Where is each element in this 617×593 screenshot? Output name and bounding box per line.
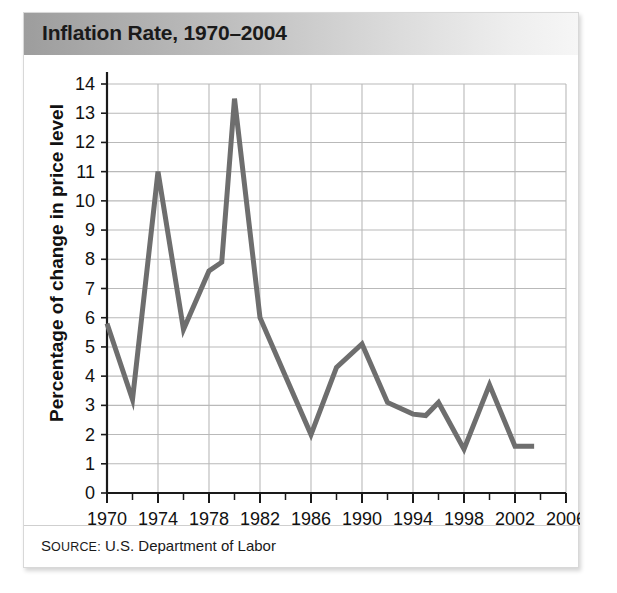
chart-figure: Inflation Rate, 1970–2004 Percentage of … (23, 12, 579, 568)
y-axis-tick-label: 12 (75, 132, 95, 152)
source-prefix-cap: S (41, 537, 51, 554)
page-title: Inflation Rate, 1970–2004 (42, 21, 287, 45)
chart-plot-region: Percentage of change in price level 0123… (24, 55, 578, 527)
y-axis-tick-label: 1 (85, 454, 95, 474)
line-chart-svg: 0123456789101112131419701974197819821986… (24, 55, 580, 527)
y-axis-tick-label: 8 (85, 249, 95, 269)
y-axis-tick-label: 6 (85, 308, 95, 328)
y-axis-tick-label: 5 (85, 337, 95, 357)
y-axis-tick-label: 13 (75, 103, 95, 123)
source-prefix-smallcaps: OURCE: (51, 540, 101, 554)
source-value: U.S. Department of Labor (101, 537, 276, 554)
chart-title-bar: Inflation Rate, 1970–2004 (24, 13, 578, 55)
y-axis-tick-label: 10 (75, 191, 95, 211)
y-axis-tick-label: 4 (85, 366, 95, 386)
y-axis-tick-label: 11 (76, 162, 95, 182)
y-axis-tick-label: 9 (85, 220, 95, 240)
y-axis-tick-label: 0 (85, 483, 95, 503)
chart-source-row: SOURCE: U.S. Department of Labor (24, 525, 578, 567)
y-axis-tick-label: 2 (85, 425, 95, 445)
y-axis-tick-label: 14 (75, 74, 95, 94)
y-axis-tick-label: 3 (85, 395, 95, 415)
y-axis-tick-label: 7 (85, 279, 95, 299)
data-series-line (107, 99, 534, 450)
source-note: SOURCE: U.S. Department of Labor (41, 537, 276, 554)
